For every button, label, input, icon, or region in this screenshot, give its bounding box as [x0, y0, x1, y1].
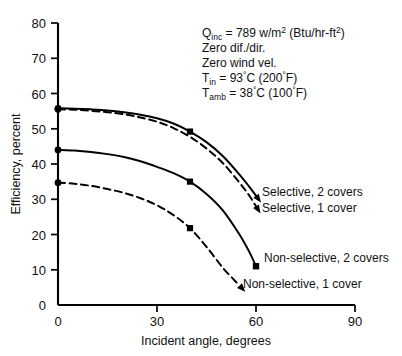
y-tick-label-40: 40: [32, 157, 46, 172]
annotation-line-zero-dif: Zero dif./dir.: [202, 41, 265, 55]
q-unit-close: ): [341, 26, 345, 40]
curve-label-selective-1-cover: Selective, 1 cover: [262, 201, 357, 215]
conditions-annotation-block: Qinc = 789 w/m2 (Btu/hr-ft2) Zero dif./d…: [202, 25, 345, 102]
chart-page: 80 70 60 50 40 30 20 10 0 0 30 60 90 Inc…: [0, 0, 402, 356]
x-tick-label-30: 30: [150, 314, 164, 329]
curve-label-nonselective-2-covers: Non-selective, 2 covers: [264, 251, 389, 265]
start-marker-selective-1-cover: [55, 106, 62, 113]
curve-labels-group: Selective, 2 covers Selective, 1 cover N…: [243, 185, 389, 291]
start-marker-non-selective-2-covers: [55, 147, 62, 154]
y-axis-title: Efficiency, percent: [9, 113, 23, 215]
y-axis-tick-labels: 80 70 60 50 40 30 20 10 0: [32, 16, 46, 313]
y-tick-label-20: 20: [32, 228, 46, 243]
tamb-unit-c: C (100: [256, 86, 292, 100]
end-marker-non-selective-2-covers: [253, 263, 259, 269]
y-tick-label-50: 50: [32, 122, 46, 137]
q-value: = 789 w/m: [222, 26, 281, 40]
data-marker-non-selective-1-cover-40: [187, 225, 193, 231]
curve-label-selective-2-covers: Selective, 2 covers: [262, 185, 363, 199]
annotation-line-t-in: Tin = 93°C (200°F): [202, 70, 297, 87]
data-marker-non-selective-2-covers-40: [187, 179, 193, 185]
y-tick-label-80: 80: [32, 16, 46, 31]
x-axis-title: Incident angle, degrees: [141, 334, 271, 348]
x-tick-label-90: 90: [348, 314, 362, 329]
tamb-unit-f: F): [296, 86, 307, 100]
q-symbol: Q: [202, 26, 211, 40]
annotation-line-t-amb: Tamb = 38°C (100°F): [202, 85, 307, 102]
annotation-line-zero-wind: Zero wind vel.: [202, 56, 277, 70]
tin-value: = 93: [216, 71, 243, 85]
tin-unit-c: C (200: [246, 71, 282, 85]
x-tick-label-0: 0: [54, 314, 61, 329]
start-marker-non-selective-1-cover: [55, 179, 62, 186]
y-tick-label-10: 10: [32, 263, 46, 278]
efficiency-vs-incident-angle-chart: 80 70 60 50 40 30 20 10 0 0 30 60 90 Inc…: [0, 0, 402, 356]
y-tick-label-0: 0: [39, 298, 46, 313]
y-tick-label-30: 30: [32, 192, 46, 207]
tamb-value: = 38: [226, 86, 253, 100]
y-tick-label-60: 60: [32, 87, 46, 102]
q-unit-open: (Btu/hr-ft: [286, 26, 337, 40]
x-tick-label-60: 60: [249, 314, 263, 329]
x-axis-tick-labels: 0 30 60 90: [54, 314, 362, 329]
tamb-subscript: amb: [209, 92, 226, 102]
annotation-line-q-inc: Qinc = 789 w/m2 (Btu/hr-ft2): [202, 25, 345, 42]
tin-unit-f: F): [286, 71, 297, 85]
y-tick-label-70: 70: [32, 51, 46, 66]
curve-label-nonselective-1-cover: Non-selective, 1 cover: [243, 277, 362, 291]
data-curves-layer: [58, 108, 256, 285]
curve-selective-1-cover: [58, 109, 256, 206]
data-marker-selective-2-covers-40: [187, 128, 193, 134]
